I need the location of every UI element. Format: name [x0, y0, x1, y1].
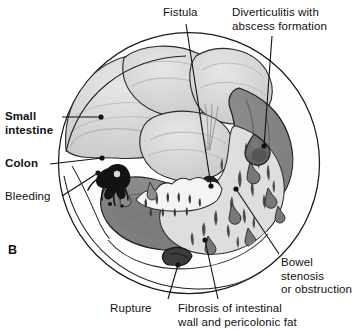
label-rupture: Rupture	[110, 302, 152, 316]
dot-diverticulitis-abscess	[261, 143, 266, 148]
label-bleeding: Bleeding	[5, 190, 51, 204]
dot-colon	[99, 155, 104, 160]
label-fibrosis: Fibrosis of intestinal wall and pericolo…	[178, 302, 297, 329]
label-small-intestine: Small intestine	[5, 110, 53, 137]
dot-rupture	[175, 262, 180, 267]
panel-letter: B	[8, 244, 17, 258]
label-bowel-stenosis: Bowel stenosis or obstruction	[281, 256, 352, 297]
dot-bleeding	[95, 170, 100, 175]
dot-fistula	[208, 183, 213, 188]
dot-fibrosis	[202, 237, 207, 242]
label-colon: Colon	[5, 157, 38, 171]
label-fistula: Fistula	[163, 6, 198, 20]
figure-container: Fistula Diverticulitis with abscess form…	[0, 0, 362, 330]
dot-small-intestine	[98, 114, 103, 119]
label-diverticulitis-abscess: Diverticulitis with abscess formation	[232, 6, 327, 33]
dot-bowel-stenosis	[233, 186, 238, 191]
